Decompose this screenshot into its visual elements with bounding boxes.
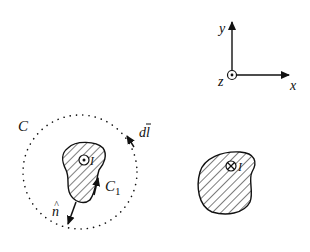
loop-c-label: C (18, 118, 29, 134)
left-conductor: I C1 n ^ (52, 142, 121, 224)
contour-c1-label: C1 (105, 178, 121, 197)
coordinate-axes: y z x (217, 21, 297, 93)
magnetic-field-diagram: y z x C dl I C1 n ^ I (0, 0, 310, 252)
left-conductor-cross-section (63, 142, 106, 202)
normal-vector-arrow (68, 202, 76, 224)
right-conductor: I (198, 152, 255, 214)
current-dot-icon (83, 159, 86, 162)
z-axis-dot-icon (231, 74, 234, 77)
dl-arrow (127, 136, 134, 147)
z-axis-label: z (217, 74, 224, 89)
y-axis-label: y (217, 21, 226, 36)
right-conductor-cross-section (198, 152, 255, 214)
dl-label: dl (139, 125, 150, 140)
x-axis-label: x (289, 78, 297, 93)
